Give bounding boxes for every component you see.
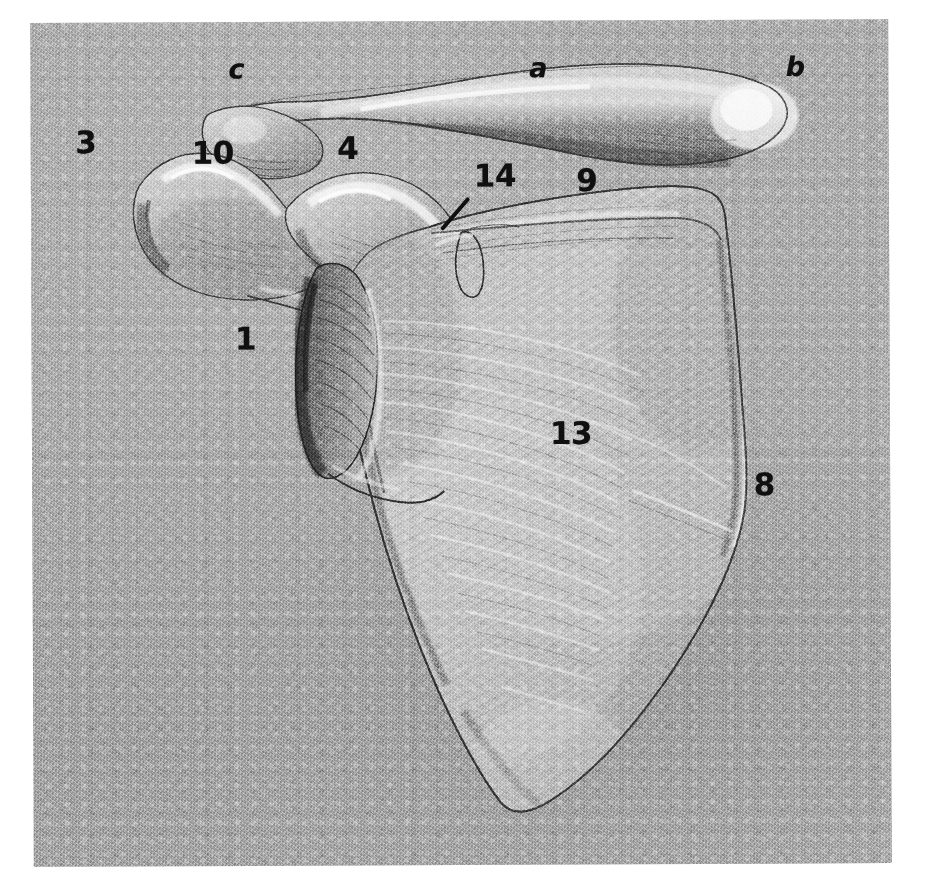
label-8: 8	[754, 469, 775, 500]
paper-sheet: cab31041491138	[30, 19, 892, 867]
label-c: c	[228, 55, 244, 82]
label-10: 10	[192, 137, 234, 168]
label-1: 1	[235, 323, 256, 354]
paper-grain-speckle	[30, 19, 892, 867]
label-a: a	[529, 54, 547, 81]
label-14: 14	[474, 160, 516, 191]
label-3: 3	[75, 127, 96, 158]
label-9: 9	[576, 165, 597, 196]
label-4: 4	[337, 133, 358, 164]
label-13: 13	[550, 418, 592, 449]
label-b: b	[786, 53, 805, 80]
figure-canvas: cab31041491138	[0, 0, 926, 883]
